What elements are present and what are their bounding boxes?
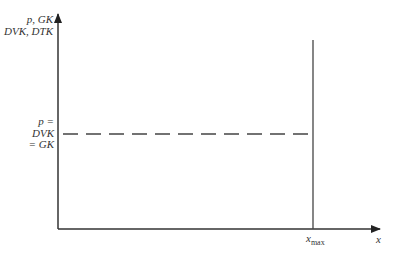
y-axis-label-line2: DVK, DTK [3,25,54,37]
xmax-label-sub: max [311,238,325,247]
y-axis-label-line1: p, GK [26,13,54,25]
xmax-label: xmax [305,232,325,247]
price-label-line3: = GK [29,138,55,150]
x-axis-label: x [375,233,381,245]
diagram-canvas: p, GK DVK, DTK p = DVK = GK xmax x [0,0,399,253]
price-label-line1: p = [37,115,54,127]
